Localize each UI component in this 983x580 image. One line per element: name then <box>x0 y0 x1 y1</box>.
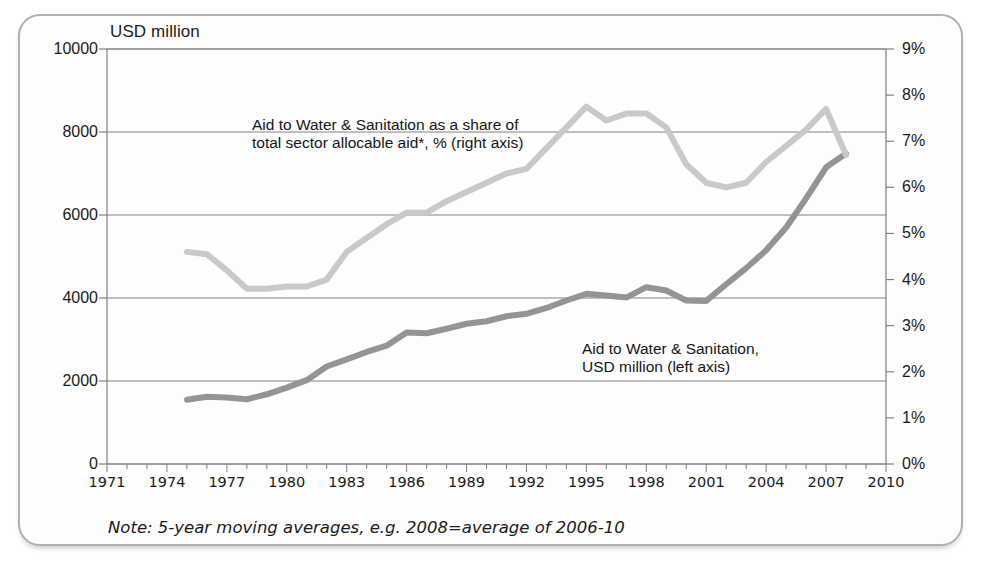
y-axis-label-right: 1% <box>902 409 925 427</box>
x-axis-label: 1974 <box>148 474 185 490</box>
y-axis-label-right: 7% <box>902 132 925 150</box>
x-axis-ticks: 1971197419771980198319861989199219951998… <box>0 474 983 508</box>
chart-stage: USD million 0200040006000800010000 0%1%2… <box>0 0 983 580</box>
x-axis-label: 1971 <box>89 474 126 490</box>
usd-annotation-line2: USD million (left axis) <box>582 358 759 376</box>
y-axis-label-right: 0% <box>902 455 925 473</box>
x-axis-label: 1977 <box>208 474 245 490</box>
x-axis-label: 1983 <box>328 474 365 490</box>
y-axis-label-right: 8% <box>902 86 925 104</box>
y-axis-label-right: 6% <box>902 178 925 196</box>
usd-series-annotation: Aid to Water & Sanitation, USD million (… <box>582 340 759 376</box>
x-axis-label: 2010 <box>868 474 905 490</box>
x-axis-label: 2001 <box>688 474 725 490</box>
y-axis-label-left: 0 <box>18 455 98 473</box>
y-axis-label-left: 8000 <box>18 123 98 141</box>
x-axis-label: 1980 <box>268 474 305 490</box>
x-axis-label: 2007 <box>808 474 845 490</box>
chart-figure: USD million 0200040006000800010000 0%1%2… <box>0 0 983 580</box>
y-axis-label-left: 2000 <box>18 372 98 390</box>
y-axis-label-left: 6000 <box>18 206 98 224</box>
x-axis-label: 1986 <box>388 474 425 490</box>
x-axis-label: 1992 <box>508 474 545 490</box>
usd-annotation-line1: Aid to Water & Sanitation, <box>582 340 759 358</box>
y-axis-label-right: 3% <box>902 317 925 335</box>
y-axis-label-right: 5% <box>902 224 925 242</box>
chart-footnote: Note: 5-year moving averages, e.g. 2008=… <box>108 518 625 537</box>
x-axis-label: 1989 <box>448 474 485 490</box>
y-axis-label-right: 2% <box>902 363 925 381</box>
pct-series-annotation: Aid to Water & Sanitation as a share of … <box>252 116 523 152</box>
pct-annotation-line1: Aid to Water & Sanitation as a share of <box>252 116 523 134</box>
pct-annotation-line2: total sector allocable aid*, % (right ax… <box>252 134 523 152</box>
y-axis-label-right: 9% <box>902 40 925 58</box>
y-axis-label-left: 4000 <box>18 289 98 307</box>
x-axis-label: 2004 <box>748 474 785 490</box>
y-axis-label-right: 4% <box>902 271 925 289</box>
plot-background <box>107 49 886 464</box>
x-axis-label: 1998 <box>628 474 665 490</box>
y-axis-label-left: 10000 <box>18 40 98 58</box>
x-axis-label: 1995 <box>568 474 605 490</box>
